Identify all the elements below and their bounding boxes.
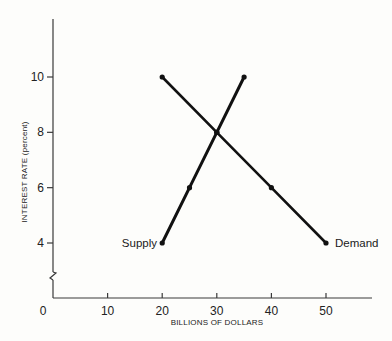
y-tick-label: 10 [31, 70, 45, 84]
axes [50, 19, 372, 298]
supply-demand-chart: 01020304050 46810 BILLIONS OF DOLLARS IN… [0, 0, 392, 341]
supply-point-marker [160, 240, 165, 245]
series-group [160, 74, 329, 245]
y-ticks: 46810 [31, 70, 53, 250]
y-axis-title: INTEREST RATE (percent) [20, 121, 29, 222]
y-tick-label: 6 [37, 181, 44, 195]
supply-point-marker [187, 185, 192, 190]
x-ticks: 01020304050 [40, 293, 333, 318]
demand-point-marker [323, 240, 328, 245]
demand-point-marker [160, 74, 165, 79]
x-tick-label: 40 [265, 304, 279, 318]
supply-curve [162, 77, 244, 243]
demand-curve [162, 77, 326, 243]
x-tick-label: 30 [210, 304, 224, 318]
y-tick-label: 4 [37, 236, 44, 250]
demand-point-marker [269, 185, 274, 190]
y-tick-label: 8 [37, 125, 44, 139]
y-axis-break-icon [50, 272, 56, 280]
supply-point-marker [242, 74, 247, 79]
demand-label: Demand [335, 237, 378, 249]
x-tick-label: 20 [156, 304, 170, 318]
x-tick-label: 10 [101, 304, 115, 318]
x-tick-label: 0 [40, 304, 47, 318]
supply-label: Supply [122, 237, 157, 249]
x-axis-title: BILLIONS OF DOLLARS [171, 318, 264, 327]
demand-point-marker [214, 130, 219, 135]
x-tick-label: 50 [319, 304, 333, 318]
